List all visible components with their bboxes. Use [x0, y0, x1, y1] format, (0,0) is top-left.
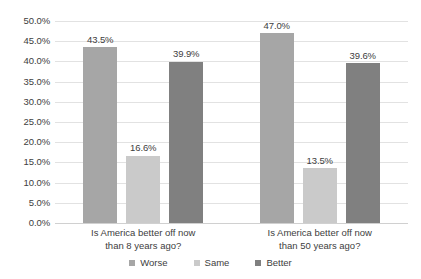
bar-worse[interactable]: [83, 47, 117, 223]
bar-wrapper: 16.6%: [126, 21, 160, 223]
bar-group: 43.5%16.6%39.9%: [55, 21, 232, 223]
bar-wrapper: 13.5%: [303, 21, 337, 223]
y-axis-tick-label: 0.0%: [0, 218, 50, 228]
y-axis-tick-label: 15.0%: [0, 158, 50, 168]
bar-value-label: 47.0%: [264, 21, 290, 31]
plot-area: 43.5%16.6%39.9%47.0%13.5%39.6%: [55, 21, 408, 223]
bar-better[interactable]: [169, 62, 203, 223]
legend-label: Better: [266, 258, 291, 268]
bar-wrapper: 39.9%: [169, 21, 203, 223]
gridline: [55, 223, 408, 224]
chart-legend: WorseSameBetter: [0, 256, 421, 270]
bar-cluster: 47.0%13.5%39.6%: [232, 21, 409, 223]
bar-worse[interactable]: [260, 33, 294, 223]
legend-swatch-icon: [129, 260, 135, 266]
bar-same[interactable]: [303, 168, 337, 223]
bar-value-label: 16.6%: [130, 143, 156, 153]
category-label-line: Is America better off now: [55, 227, 232, 240]
category-label: Is America better off nowthan 8 years ag…: [55, 227, 232, 252]
y-axis-tick-label: 50.0%: [0, 16, 50, 26]
category-label-line: Is America better off now: [232, 227, 409, 240]
bar-wrapper: 43.5%: [83, 21, 117, 223]
bar-group: 47.0%13.5%39.6%: [232, 21, 409, 223]
bar-same[interactable]: [126, 156, 160, 223]
legend-item-same[interactable]: Same: [194, 258, 230, 268]
bar-wrapper: 47.0%: [260, 21, 294, 223]
bar-wrapper: 39.6%: [346, 21, 380, 223]
y-axis-tick-label: 20.0%: [0, 137, 50, 147]
legend-label: Same: [205, 258, 230, 268]
bar-value-label: 13.5%: [307, 156, 333, 166]
y-axis-tick-label: 5.0%: [0, 198, 50, 208]
bar-value-label: 39.6%: [350, 51, 376, 61]
category-axis-labels: Is America better off nowthan 8 years ag…: [55, 227, 408, 253]
category-label-line: than 50 years ago?: [232, 240, 409, 253]
bar-chart: 43.5%16.6%39.9%47.0%13.5%39.6% 0.0%5.0%1…: [0, 0, 421, 279]
bar-value-label: 39.9%: [173, 49, 199, 59]
bar-cluster: 43.5%16.6%39.9%: [55, 21, 232, 223]
y-axis-tick-label: 45.0%: [0, 36, 50, 46]
legend-item-better[interactable]: Better: [255, 258, 291, 268]
bar-better[interactable]: [346, 63, 380, 223]
y-axis-tick-label: 25.0%: [0, 117, 50, 127]
y-axis-tick-label: 30.0%: [0, 97, 50, 107]
legend-item-worse[interactable]: Worse: [129, 258, 167, 268]
y-axis: 0.0%5.0%10.0%15.0%20.0%25.0%30.0%35.0%40…: [0, 21, 50, 223]
category-label: Is America better off nowthan 50 years a…: [232, 227, 409, 252]
bar-value-label: 43.5%: [87, 35, 113, 45]
legend-swatch-icon: [194, 260, 200, 266]
y-axis-tick-label: 40.0%: [0, 57, 50, 67]
legend-label: Worse: [140, 258, 167, 268]
category-label-line: than 8 years ago?: [55, 240, 232, 253]
legend-swatch-icon: [255, 260, 261, 266]
y-axis-tick-label: 35.0%: [0, 77, 50, 87]
y-axis-tick-label: 10.0%: [0, 178, 50, 188]
